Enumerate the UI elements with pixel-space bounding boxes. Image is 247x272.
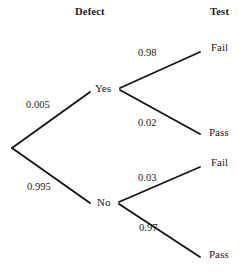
branch-root-to-no [12,148,90,203]
outcome-label-no-pass: Pass [209,249,229,260]
branch-root-to-yes [12,92,90,148]
node-label-yes: Yes [95,83,111,94]
probability-no-pass: 0.97 [139,223,157,234]
probability-defect-yes: 0.005 [26,100,50,111]
outcome-label-yes-fail: Fail [211,42,228,53]
branch-no-to-fail [119,167,200,202]
probability-tree-diagram: Defect Test Yes No 0.005 0.995 0.98 0.02… [0,0,247,272]
branch-yes-to-fail [120,52,200,88]
node-label-no: No [97,197,110,208]
probability-defect-no: 0.995 [27,182,51,193]
probability-yes-pass: 0.02 [138,118,156,129]
branch-no-to-pass [119,204,200,257]
column-header-defect: Defect [75,7,105,18]
outcome-label-yes-pass: Pass [209,127,229,138]
outcome-label-no-fail: Fail [211,157,228,168]
branch-yes-to-pass [120,90,200,134]
probability-no-fail: 0.03 [138,173,156,184]
column-header-test: Test [210,7,229,18]
probability-yes-fail: 0.98 [138,48,156,59]
